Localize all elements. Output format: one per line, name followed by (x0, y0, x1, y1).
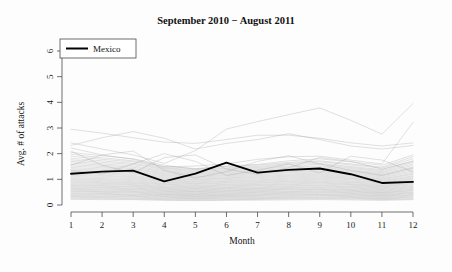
x-tick-label: 2 (100, 220, 105, 230)
x-axis: 123456789101112 (69, 212, 418, 230)
chart-figure: September 2010 − August 2011 0123456 123… (0, 0, 452, 272)
x-tick-label: 4 (162, 220, 167, 230)
y-axis: 0123456 (45, 48, 62, 207)
background-series-line (71, 132, 413, 149)
y-axis-label: Avg. # of attacks (16, 102, 26, 166)
background-series-line (71, 122, 413, 167)
x-tick-label: 3 (131, 220, 136, 230)
x-tick-label: 9 (317, 220, 322, 230)
y-tick-group: 0123456 (45, 48, 62, 207)
chart-title: September 2010 − August 2011 (157, 15, 295, 26)
legend-label-mexico: Mexico (93, 44, 121, 54)
x-axis-label: Month (229, 236, 255, 246)
x-tick-group: 123456789101112 (69, 212, 418, 230)
y-tick-label: 4 (45, 100, 55, 105)
x-tick-label: 10 (346, 220, 356, 230)
x-tick-label: 5 (193, 220, 198, 230)
y-tick-label: 6 (45, 48, 55, 53)
x-tick-label: 11 (378, 220, 387, 230)
legend[interactable]: Mexico (60, 39, 136, 58)
x-tick-label: 8 (286, 220, 291, 230)
x-tick-label: 1 (69, 220, 74, 230)
y-tick-label: 2 (45, 151, 55, 156)
line-chart-canvas: September 2010 − August 2011 0123456 123… (0, 0, 452, 272)
y-tick-label: 0 (45, 202, 55, 207)
y-tick-label: 5 (45, 74, 55, 79)
y-tick-label: 1 (45, 177, 55, 182)
x-tick-label: 12 (409, 220, 418, 230)
x-tick-label: 7 (255, 220, 260, 230)
y-tick-label: 3 (45, 125, 55, 130)
background-series-group (71, 104, 413, 201)
background-series-line (71, 129, 413, 146)
x-tick-label: 6 (224, 220, 229, 230)
